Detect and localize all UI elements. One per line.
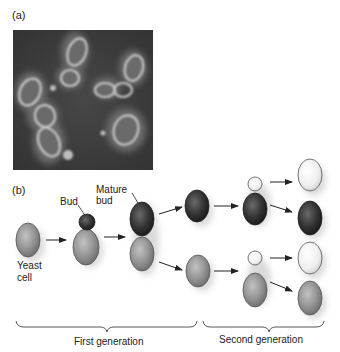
budding-dark-mother (243, 193, 267, 225)
bud (79, 214, 95, 230)
new-bud-bottom (248, 251, 262, 265)
daughter-dark (185, 190, 209, 222)
budding-mid-mother (243, 273, 267, 307)
final-mid (298, 281, 322, 315)
mother-cell-2 (130, 237, 154, 271)
daughter-mid (186, 255, 210, 287)
second-generation-label: Second generation (219, 334, 303, 346)
final-dark (298, 201, 322, 235)
yeast-cell (16, 223, 40, 257)
final-light-2 (298, 242, 322, 274)
budding-diagram (0, 0, 340, 352)
first-generation-label: First generation (74, 336, 143, 348)
first-generation-brace (16, 321, 197, 332)
mother-cell (73, 229, 99, 265)
final-light-1 (298, 159, 322, 191)
second-generation-brace (203, 321, 324, 332)
mature-bud (130, 202, 154, 236)
yeast-cell-label-1: Yeast (17, 260, 42, 272)
mature-bud-label-2: bud (96, 195, 113, 207)
bud-label: Bud (60, 196, 78, 208)
yeast-cell-label-2: cell (17, 272, 32, 284)
new-bud-top (248, 177, 262, 191)
